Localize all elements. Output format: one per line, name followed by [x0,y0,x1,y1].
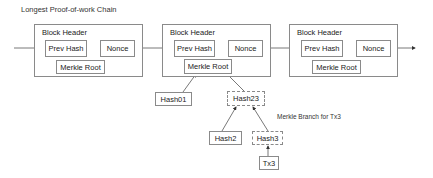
nonce-field: Nonce [356,40,391,57]
prev-hash-field: Prev Hash [174,40,215,57]
block-header-label: Block Header [297,28,342,37]
prev-hash-field: Prev Hash [45,40,87,57]
diagram-title: Longest Proof-of-work Chain [21,5,116,14]
prev-hash-field: Prev Hash [301,40,343,57]
nonce-field: Nonce [228,40,263,57]
block-header-label: Block Header [42,28,87,37]
block-header-label: Block Header [170,28,215,37]
hash01-node: Hash01 [155,92,192,106]
nonce-field: Nonce [100,40,135,57]
merkle-root-field: Merkle Root [184,59,232,74]
merkle-root-field: Merkle Root [312,60,361,74]
merkle-branch-annotation: Merkle Branch for Tx3 [277,113,341,120]
hash2-node: Hash2 [209,131,242,145]
tx3-node: Tx3 [259,156,279,170]
hash23-node: Hash23 [227,91,265,106]
merkle-root-field: Merkle Root [56,60,105,74]
hash3-node: Hash3 [252,131,283,145]
